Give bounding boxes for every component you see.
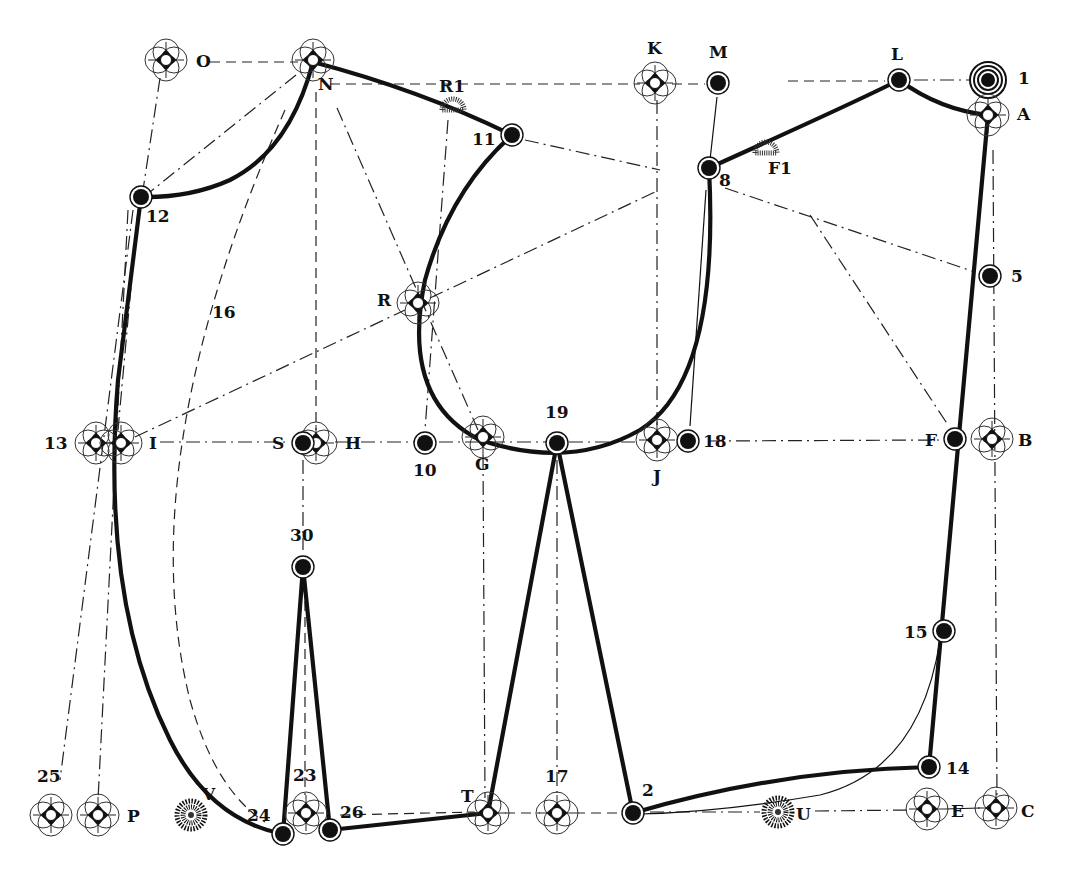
- label-14: 14: [946, 758, 970, 778]
- label-15: 15: [904, 622, 928, 642]
- label-A: A: [1016, 104, 1031, 124]
- point-1-target-marker: [970, 62, 1006, 98]
- point-30-marker: [292, 556, 314, 578]
- point-17-marker: [536, 792, 578, 834]
- point-5-marker: [979, 265, 1001, 287]
- point-O-marker: [145, 39, 187, 81]
- point-F-marker: [944, 428, 966, 450]
- label-24: 24: [247, 805, 271, 825]
- label-C: C: [1021, 801, 1035, 821]
- label-R: R: [377, 290, 392, 310]
- point-12-marker: [130, 186, 152, 208]
- label-8: 8: [719, 170, 731, 190]
- pattern-diagram: O N K M L 1 A R1 11 8 F1 12 5 16 R 13 I …: [0, 0, 1066, 871]
- label-23: 23: [293, 765, 317, 785]
- label-P: P: [127, 806, 140, 826]
- construction-lines: [60, 62, 997, 822]
- label-25: 25: [37, 766, 61, 786]
- point-19-marker: [546, 432, 568, 454]
- point-26-marker: [319, 819, 341, 841]
- point-18-marker: [677, 430, 699, 452]
- point-15-marker: [933, 620, 955, 642]
- label-10: 10: [413, 460, 437, 480]
- point-C-marker: [975, 787, 1017, 829]
- point-labels: O N K M L 1 A R1 11 8 F1 12 5 16 R 13 I …: [37, 38, 1035, 826]
- label-H: H: [345, 433, 361, 453]
- label-13: 13: [44, 433, 68, 453]
- label-N: N: [318, 74, 334, 94]
- label-F: F: [925, 430, 937, 450]
- label-T: T: [461, 786, 474, 806]
- point-E-marker: [906, 788, 948, 830]
- label-F1: F1: [768, 158, 792, 178]
- label-S: S: [272, 433, 284, 453]
- point-V-marker: [177, 801, 205, 829]
- point-L-marker: [888, 69, 910, 91]
- label-16: 16: [212, 302, 236, 322]
- point-S-marker: [292, 432, 314, 454]
- label-R1: R1: [439, 76, 465, 96]
- label-J: J: [651, 466, 661, 486]
- label-I: I: [149, 433, 157, 453]
- label-30: 30: [290, 525, 314, 545]
- point-A-marker: [967, 94, 1009, 136]
- point-U-marker: [764, 798, 792, 826]
- label-19: 19: [545, 402, 569, 422]
- label-V: V: [201, 784, 216, 804]
- point-P-marker: [77, 794, 119, 836]
- label-M: M: [709, 42, 728, 62]
- label-18: 18: [703, 431, 727, 451]
- point-I-marker: [100, 422, 142, 464]
- point-10-marker: [414, 432, 436, 454]
- point-G-marker: [462, 416, 504, 458]
- label-17: 17: [545, 766, 569, 786]
- point-24-marker: [272, 823, 294, 845]
- label-B: B: [1018, 430, 1032, 450]
- point-11-marker: [501, 124, 523, 146]
- point-8-marker: [698, 157, 720, 179]
- label-K: K: [647, 38, 663, 58]
- point-M-marker: [707, 72, 729, 94]
- point-B-marker: [971, 418, 1013, 460]
- point-R-marker: [397, 282, 439, 324]
- point-25-marker: [30, 794, 72, 836]
- label-5: 5: [1011, 266, 1023, 286]
- label-O: O: [196, 51, 211, 71]
- label-11: 11: [472, 129, 496, 149]
- label-1: 1: [1018, 68, 1030, 88]
- label-26: 26: [340, 802, 364, 822]
- point-14-marker: [918, 756, 940, 778]
- label-E: E: [951, 801, 964, 821]
- point-J-marker: [636, 419, 678, 461]
- label-2: 2: [642, 780, 654, 800]
- point-K-marker: [634, 62, 676, 104]
- label-L: L: [891, 44, 903, 64]
- label-G: G: [475, 454, 490, 474]
- point-2-marker: [622, 802, 644, 824]
- label-12: 12: [146, 206, 170, 226]
- label-U: U: [796, 804, 811, 824]
